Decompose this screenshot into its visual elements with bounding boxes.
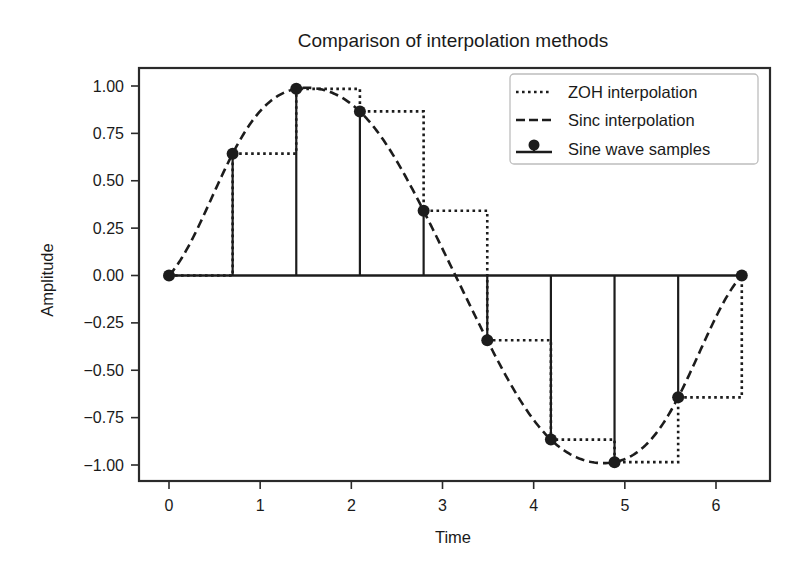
y-axis-label: Amplitude — [38, 243, 56, 316]
chart-title: Comparison of interpolation methods — [298, 30, 609, 51]
legend-label-zoh: ZOH interpolation — [568, 83, 697, 101]
sample-marker — [163, 270, 175, 282]
sample-marker — [481, 334, 493, 346]
x-tick-label: 4 — [529, 497, 538, 514]
legend: ZOH interpolation Sinc interpolation Sin… — [510, 74, 758, 164]
sample-marker — [354, 105, 366, 117]
sample-marker — [227, 148, 239, 160]
x-tick-label: 1 — [256, 497, 265, 514]
y-tick-label: 1.00 — [93, 78, 124, 95]
y-tick-label: −0.25 — [84, 314, 125, 331]
y-tick-label: −0.50 — [84, 362, 125, 379]
sample-marker — [418, 205, 430, 217]
sample-marker — [736, 270, 748, 282]
sample-marker — [545, 434, 557, 446]
sample-marker — [290, 83, 302, 95]
stem-marker-icon — [529, 140, 540, 151]
y-tick-label: 0.25 — [93, 220, 124, 237]
x-tick-label: 3 — [438, 497, 447, 514]
y-tick-label: −0.75 — [84, 409, 125, 426]
x-tick-label: 5 — [620, 497, 629, 514]
chart: Comparison of interpolation methods 1.00… — [0, 0, 810, 568]
sample-marker — [609, 456, 621, 468]
y-tick-label: 0.50 — [93, 172, 124, 189]
x-axis: 0123456 — [165, 481, 721, 514]
sample-marker — [672, 391, 684, 403]
y-tick-label: 0.75 — [93, 125, 124, 142]
legend-label-samples: Sine wave samples — [568, 140, 710, 158]
y-tick-label: −1.00 — [84, 457, 125, 474]
x-tick-label: 2 — [347, 497, 356, 514]
x-axis-label: Time — [435, 528, 471, 546]
legend-label-sinc: Sinc interpolation — [568, 111, 695, 129]
y-axis: 1.000.750.500.250.00−0.25−0.50−0.75−1.00 — [84, 78, 139, 474]
x-tick-label: 6 — [712, 497, 721, 514]
y-tick-label: 0.00 — [93, 267, 124, 284]
x-tick-label: 0 — [165, 497, 174, 514]
